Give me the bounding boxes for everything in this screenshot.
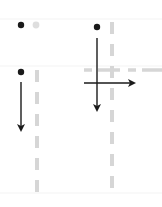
touch-point-dot [94, 24, 100, 30]
touch-point-dot [18, 69, 24, 75]
touch-point-dot [18, 22, 24, 28]
gesture-diagram [0, 0, 162, 207]
ghost-dot [33, 22, 40, 29]
